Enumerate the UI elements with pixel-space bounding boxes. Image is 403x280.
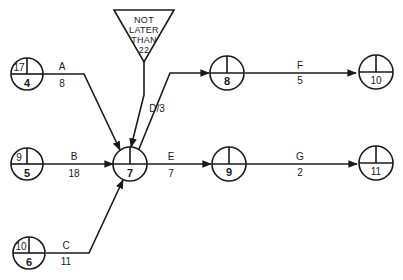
activity-f-duration: 5 [297,75,303,86]
constraint-line-1: NOT [134,15,154,25]
node-5: 9 5 [11,148,43,180]
node-6-early: 10 [15,241,27,252]
activity-a-duration: 8 [59,78,65,89]
node-5-early: 9 [16,152,22,163]
activity-c-arrow [46,180,123,253]
activity-b-duration: 18 [68,168,80,179]
node-11: 11 [359,146,393,180]
node-8-number: 8 [224,75,230,87]
constraint-line-4: 22 [139,45,150,55]
activity-a-arrow [43,74,120,150]
node-9-number: 9 [226,166,232,178]
activity-e-duration: 7 [168,168,174,179]
activity-g-label: G [296,151,304,162]
diagram-svg: NOT LATER THAN 22 A 8 B 18 C 11 D/3 E 7 … [0,0,403,280]
node-7-number: 7 [127,167,133,179]
node-6-number: 6 [26,256,32,268]
node-10: 10 [359,55,393,89]
activity-c-label: C [62,240,69,251]
node-4: 17 4 [11,58,43,90]
node-4-early: 17 [13,62,25,73]
node-9: 9 [212,147,246,181]
constraint-arrow [131,62,144,147]
constraint-line-3: THAN [131,35,157,45]
activity-f-label: F [297,60,303,71]
activity-d-label: D/3 [149,103,165,114]
activity-c-duration: 11 [61,256,72,267]
activity-a-label: A [59,61,66,72]
activity-b-label: B [71,151,78,162]
node-10-number: 10 [370,75,382,86]
activity-e-label: E [168,151,175,162]
node-5-number: 5 [24,167,30,179]
node-11-number: 11 [371,166,382,177]
node-7: 7 [113,147,147,181]
constraint-line-2: LATER [129,25,159,35]
node-8: 8 [210,56,244,90]
activity-g-duration: 2 [297,167,303,178]
node-6: 10 6 [13,237,45,269]
network-diagram: NOT LATER THAN 22 A 8 B 18 C 11 D/3 E 7 … [0,0,403,280]
node-4-number: 4 [24,77,31,89]
constraint-triangle: NOT LATER THAN 22 [114,10,174,62]
